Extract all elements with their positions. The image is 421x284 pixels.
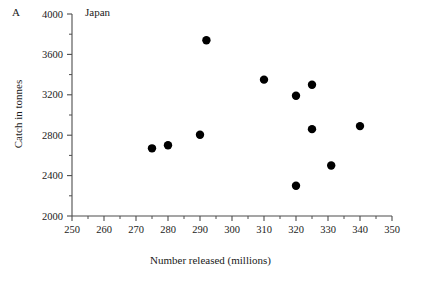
data-point	[202, 36, 210, 44]
y-tick-label: 4000	[42, 9, 63, 20]
data-point	[148, 144, 156, 152]
data-point	[308, 81, 316, 89]
y-tick-label: 3600	[42, 49, 63, 60]
x-tick-label: 310	[256, 224, 272, 235]
x-tick-label: 290	[192, 224, 208, 235]
x-tick-label: 330	[320, 224, 336, 235]
x-axis-title: Number released (millions)	[0, 254, 421, 266]
x-tick-label: 300	[224, 224, 240, 235]
y-tick-label: 2000	[42, 211, 63, 222]
data-point	[308, 125, 316, 133]
x-axis-ticks: 250260270280290300310320330340350	[64, 216, 400, 235]
y-axis-title: Catch in tonnes	[12, 44, 24, 184]
x-tick-label: 270	[128, 224, 144, 235]
x-tick-label: 350	[384, 224, 400, 235]
x-tick-label: 260	[96, 224, 112, 235]
data-point	[164, 141, 172, 149]
data-point	[292, 92, 300, 100]
x-tick-label: 250	[64, 224, 80, 235]
data-point	[260, 75, 268, 83]
data-point	[196, 130, 204, 138]
y-tick-label: 3200	[42, 89, 63, 100]
plot-canvas: 200024002800320036004000 250260270280290…	[0, 0, 421, 284]
y-tick-label: 2400	[42, 170, 63, 181]
data-point	[292, 182, 300, 190]
data-point	[327, 161, 335, 169]
y-tick-label: 2800	[42, 130, 63, 141]
data-points-group	[148, 36, 364, 190]
x-tick-label: 320	[288, 224, 304, 235]
data-point	[356, 122, 364, 130]
x-tick-label: 340	[352, 224, 368, 235]
scatter-plot-figure: A Japan 200024002800320036004000 2502602…	[0, 0, 421, 284]
y-axis-ticks: 200024002800320036004000	[42, 9, 72, 222]
x-tick-label: 280	[160, 224, 176, 235]
